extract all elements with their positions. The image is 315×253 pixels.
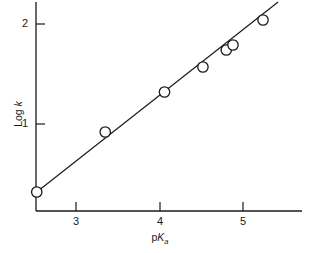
best-fit-line bbox=[37, 2, 278, 192]
data-point bbox=[159, 87, 169, 97]
data-point bbox=[198, 62, 208, 72]
axis-lines bbox=[36, 2, 302, 211]
y-axis-ticks bbox=[36, 24, 45, 124]
y-axis-title-italic: k bbox=[12, 101, 24, 106]
x-tick-label-3: 3 bbox=[66, 215, 86, 227]
data-point-markers bbox=[32, 15, 269, 197]
data-point bbox=[228, 40, 238, 50]
data-point bbox=[100, 127, 110, 137]
y-tick-label-2: 2 bbox=[6, 17, 28, 29]
x-axis-title: pKa bbox=[110, 231, 210, 246]
y-axis-title-prefix: Log bbox=[12, 106, 24, 126]
x-axis-ticks bbox=[76, 202, 243, 211]
x-axis-title-subscript: a bbox=[164, 237, 168, 246]
chart-figure: 2 1 3 4 5 Log k pKa bbox=[0, 0, 315, 253]
data-point bbox=[258, 15, 268, 25]
data-point bbox=[32, 187, 42, 197]
x-tick-label-4: 4 bbox=[150, 215, 170, 227]
x-tick-label-5: 5 bbox=[233, 215, 253, 227]
fit-line-group bbox=[37, 2, 278, 192]
y-axis-title: Log k bbox=[12, 84, 24, 144]
